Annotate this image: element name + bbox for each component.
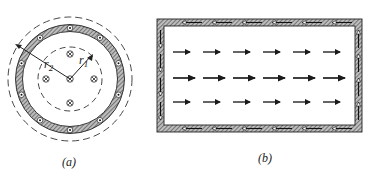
- dot-marker-icon: [37, 35, 43, 41]
- cross-marker-icon: [67, 51, 73, 57]
- dot-marker-icon: [67, 127, 73, 133]
- cross-marker-icon: [43, 76, 49, 82]
- panel-b-longitudinal-section: [157, 19, 362, 132]
- panel-a-coax-cross-section: r2 r1: [8, 17, 132, 141]
- caption-a: (a): [62, 155, 76, 170]
- cross-marker-icon: [67, 100, 73, 106]
- dot-marker-icon: [97, 35, 103, 41]
- dot-marker-icon: [67, 25, 73, 31]
- cross-marker-icon: [91, 76, 97, 82]
- dot-marker-icon: [19, 92, 25, 98]
- dot-marker-icon: [116, 60, 122, 66]
- r2-label: r2: [44, 57, 54, 73]
- dot-marker-icon: [19, 60, 25, 66]
- r1-label: r1: [79, 53, 88, 69]
- dot-marker-icon: [116, 92, 122, 98]
- caption-b: (b): [258, 151, 272, 166]
- dot-marker-icon: [97, 117, 103, 123]
- figure-canvas: r2 r1: [0, 0, 371, 175]
- dot-marker-icon: [37, 117, 43, 123]
- frame-interior: [164, 26, 355, 125]
